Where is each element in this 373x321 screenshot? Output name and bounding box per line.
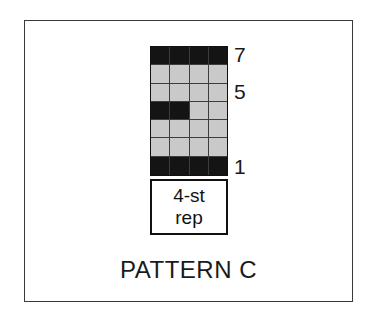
- stitch-cell-r5-c2: [170, 84, 189, 102]
- row-number-label-5: 5: [234, 81, 268, 102]
- figure-root: 7 5 1 4-st rep PATTERN C: [0, 0, 373, 321]
- stitch-cell-r5-c3: [190, 84, 209, 102]
- pattern-caption: PATTERN C: [25, 256, 352, 284]
- stitch-cell-r2-c1: [151, 138, 170, 156]
- figure-border-frame: 7 5 1 4-st rep PATTERN C: [24, 20, 353, 302]
- stitch-cell-r6-c2: [170, 65, 189, 83]
- row-number-label-1: 1: [234, 156, 268, 177]
- stitch-cell-r7-c2: [170, 47, 189, 65]
- stitch-cell-r6-c4: [209, 65, 227, 83]
- stitch-cell-r7-c4: [209, 47, 227, 65]
- stitch-cell-r5-c1: [151, 84, 170, 102]
- stitch-cell-r2-c4: [209, 138, 227, 156]
- stitch-cell-r7-c1: [151, 47, 170, 65]
- stitch-cell-r6-c3: [190, 65, 209, 83]
- stitch-cell-r1-c1: [151, 157, 170, 175]
- stitch-cell-r4-c1: [151, 102, 170, 120]
- stitch-chart-block: 7 5 1 4-st rep: [150, 46, 228, 255]
- row-number-label-7: 7: [234, 44, 268, 65]
- stitch-cell-r1-c3: [190, 157, 209, 175]
- stitch-cell-r2-c3: [190, 138, 209, 156]
- stitch-cell-r1-c2: [170, 157, 189, 175]
- stitch-cell-r3-c3: [190, 120, 209, 138]
- stitch-cell-r3-c1: [151, 120, 170, 138]
- stitch-grid-row-7: [151, 47, 227, 65]
- repeat-box-line-1: 4-st: [173, 185, 205, 207]
- stitch-cell-r4-c3: [190, 102, 209, 120]
- stitch-cell-r4-c4: [209, 102, 227, 120]
- stitch-cell-r1-c4: [209, 157, 227, 175]
- stitch-grid-row-4: [151, 102, 227, 120]
- repeat-box-line-2: rep: [175, 207, 202, 229]
- stitch-grid-row-2: [151, 138, 227, 156]
- stitch-cell-r6-c1: [151, 65, 170, 83]
- stitch-grid-row-3: [151, 120, 227, 138]
- stitch-pattern-grid: [150, 46, 228, 176]
- stitch-cell-r5-c4: [209, 84, 227, 102]
- stitch-repeat-box: 4-st rep: [150, 179, 228, 235]
- stitch-cell-r2-c2: [170, 138, 189, 156]
- stitch-cell-r3-c4: [209, 120, 227, 138]
- stitch-grid-row-5: [151, 84, 227, 102]
- stitch-cell-r4-c2: [170, 102, 189, 120]
- stitch-grid-row-1: [151, 157, 227, 175]
- stitch-cell-r3-c2: [170, 120, 189, 138]
- stitch-cell-r7-c3: [190, 47, 209, 65]
- stitch-grid-row-6: [151, 65, 227, 83]
